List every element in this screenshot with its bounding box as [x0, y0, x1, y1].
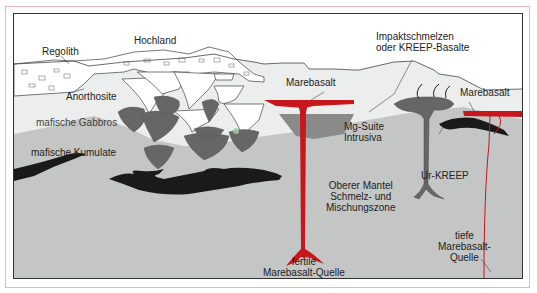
diagram-panel: Regolith Hochland Impaktschmelzen oder K… — [13, 13, 523, 279]
label-anorthosite: Anorthosite — [66, 91, 117, 102]
label-mg-suite: Mg-Suite Intrusiva — [344, 121, 384, 143]
label-deep-source: tiefe Marebasalt- Quelle — [438, 230, 491, 263]
label-marebasalt-right: Marebasalt — [460, 87, 509, 98]
label-marebasalt-left: Marebasalt — [286, 77, 335, 88]
label-upper-mantle: Oberer Mantel Schmelz- und Mischungszone — [326, 180, 395, 213]
label-mafic-gabbros: mafische Gabbros — [36, 117, 117, 128]
green-spot — [233, 128, 239, 134]
label-impaktschmelzen: Impaktschmelzen oder KREEP-Basalte — [376, 31, 469, 53]
label-hochland: Hochland — [134, 35, 176, 46]
label-fertile-source: fertile Marebasalt-Quelle — [263, 256, 345, 278]
label-regolith: Regolith — [42, 46, 79, 57]
marebasalt-right-surface — [463, 111, 522, 117]
label-ur-kreep: Ur-KREEP — [421, 170, 469, 181]
label-mafic-cumulates: mafische Kumulate — [31, 147, 116, 158]
